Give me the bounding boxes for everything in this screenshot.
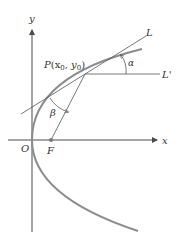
parabola-reflection-diagram: y x O F P(x0, y0) L L' α β	[0, 0, 184, 243]
svg-text:P(x0, y0): P(x0, y0)	[43, 59, 85, 72]
beta-label: β	[49, 107, 56, 118]
tangent-line-L	[21, 36, 146, 114]
focal-line-PF	[51, 74, 85, 140]
x-axis-label: x	[162, 135, 168, 146]
y-axis-label: y	[28, 13, 35, 24]
focus-label: F	[46, 145, 55, 156]
point-P-label: P(x0, y0)	[43, 59, 85, 72]
focus-point	[49, 138, 53, 142]
tangent-L-label: L	[145, 27, 153, 38]
alpha-angle-arc	[121, 55, 126, 74]
origin-label: O	[21, 143, 29, 154]
alpha-label: α	[128, 58, 134, 68]
horizontal-L-prime-label: L'	[161, 69, 171, 80]
